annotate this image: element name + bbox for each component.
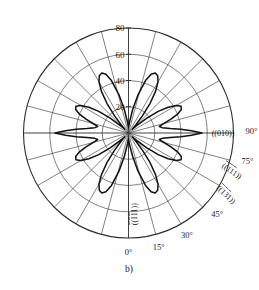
radial-tick-label-60: 60 <box>116 50 126 60</box>
miller-111-lower-text: ((111)) <box>130 203 139 225</box>
grid-spoke-165 <box>129 32 156 133</box>
angle-tick-label-15: 15° <box>153 242 165 252</box>
polar-figure: 20406080 0°15°30°45°75°90° ((010))((111)… <box>0 0 259 290</box>
miller-010: ((010)) <box>212 129 235 138</box>
radial-tick-label-20: 20 <box>116 102 126 112</box>
miller-111-lower: ((111)) <box>129 203 139 225</box>
miller-010-text: ((010)) <box>212 129 235 138</box>
angle-tick-label-90: 90° <box>246 126 258 136</box>
angle-tick-label-75: 75° <box>242 156 254 166</box>
radial-tick-label-40: 40 <box>116 76 126 86</box>
grid-spoke-345 <box>101 133 128 234</box>
miller-131: ((131)) <box>215 183 238 206</box>
radial-tick-label-80: 80 <box>116 23 126 33</box>
angular-tick-labels: 0°15°30°45°75°90° <box>125 126 258 258</box>
angle-tick-label-45: 45° <box>211 209 223 219</box>
grid-spoke-330 <box>76 133 129 224</box>
angle-tick-label-30: 30° <box>181 230 193 240</box>
figure-caption: b) <box>125 264 133 275</box>
grid-spoke-150 <box>129 42 182 133</box>
angle-tick-label-0: 0° <box>125 247 133 257</box>
polar-chart-canvas: 20406080 0°15°30°45°75°90° ((010))((111)… <box>0 0 259 290</box>
